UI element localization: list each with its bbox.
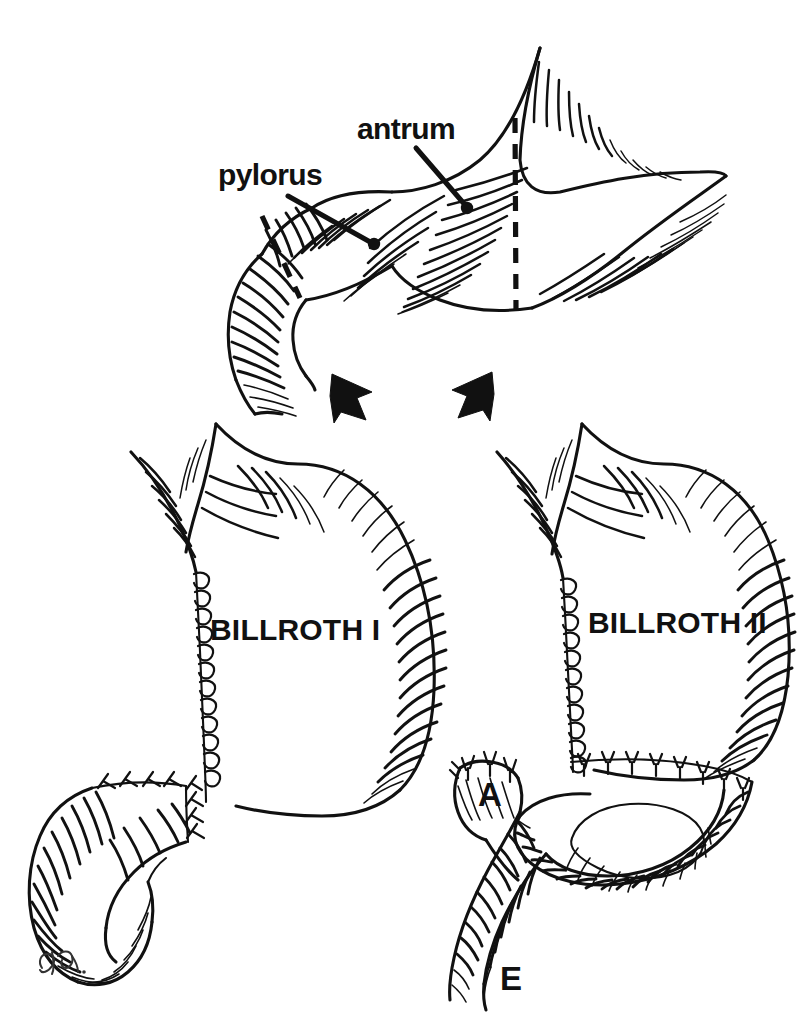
antrum-leader-dot (461, 202, 473, 214)
efferent-limb-label: E (500, 960, 522, 997)
pylorus-leader-dot (368, 238, 380, 250)
antrum-label: antrum (357, 112, 455, 145)
illustration-canvas: antrum pylorus (0, 0, 809, 1030)
canvas-background (0, 0, 809, 1030)
billroth-2-label: BILLROTH II (588, 606, 767, 639)
pylorus-label: pylorus (218, 158, 322, 191)
medical-illustration: antrum pylorus (0, 0, 809, 1030)
afferent-limb-label: A (478, 776, 502, 813)
billroth-1-label: BILLROTH I (210, 613, 380, 646)
